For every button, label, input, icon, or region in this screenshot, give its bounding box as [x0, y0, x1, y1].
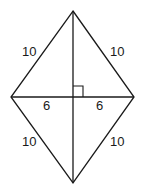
right-angle-marker [73, 86, 83, 97]
label-right-half-diagonal: 6 [96, 98, 103, 113]
label-lower-right-side: 10 [110, 134, 124, 149]
rhombus-diagram: 10 10 6 6 10 10 [0, 0, 142, 192]
label-left-half-diagonal: 6 [43, 98, 50, 113]
label-lower-left-side: 10 [22, 134, 36, 149]
label-upper-left-side: 10 [22, 44, 36, 59]
label-upper-right-side: 10 [110, 44, 124, 59]
